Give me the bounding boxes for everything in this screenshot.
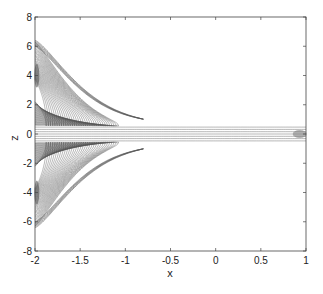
y-tick-label: -6 [23, 216, 32, 227]
x-tick-label: 0.5 [254, 255, 268, 266]
y-tick-label: 0 [26, 129, 32, 140]
y-axis-label: z [8, 135, 20, 141]
x-tick-label: -2 [31, 255, 40, 266]
y-tick-label: 6 [26, 41, 32, 52]
x-tick-label: -1.5 [72, 255, 90, 266]
y-tick-label: -2 [23, 158, 32, 169]
y-tick-label: 8 [26, 12, 32, 23]
x-tick-label: 0 [213, 255, 219, 266]
x-tick-label: -0.5 [162, 255, 180, 266]
y-tick-label: -4 [23, 187, 32, 198]
x-tick-label: 1 [303, 255, 309, 266]
y-tick-label: 2 [26, 99, 32, 110]
x-tick-label: -1 [121, 255, 130, 266]
y-tick-label: -8 [23, 246, 32, 257]
y-tick-label: 4 [26, 70, 32, 81]
x-axis-label: x [167, 267, 173, 279]
x-axis: -2-1.5-1-0.500.51 [31, 17, 310, 266]
contour-lines [34, 40, 306, 227]
contour-chart: -2-1.5-1-0.500.51 -8-6-4-202468 x z [0, 0, 323, 294]
